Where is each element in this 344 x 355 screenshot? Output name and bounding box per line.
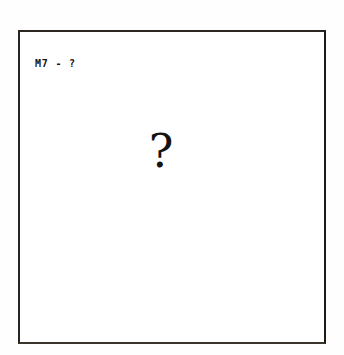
figure-interior: M7 - ? ?: [20, 32, 324, 342]
panel-label: M7 - ?: [35, 58, 76, 70]
page-canvas: M7 - ? ?: [0, 0, 344, 355]
figure-frame: M7 - ? ?: [18, 30, 326, 344]
question-mark-placeholder: ?: [20, 128, 324, 174]
